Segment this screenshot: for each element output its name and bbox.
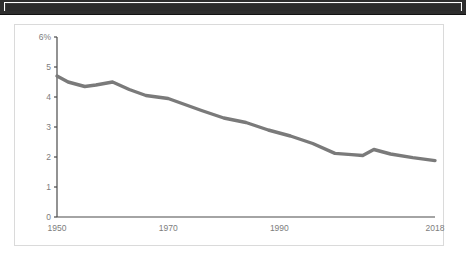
cropped-banner-edge [0,0,466,15]
x-tick-label: 1990 [270,223,289,233]
chart-panel: 0123456% 1950197019902018 [14,24,444,246]
chart-svg: 0123456% 1950197019902018 [15,25,445,247]
y-tick-label: 2 [46,152,51,162]
x-axis-tick-labels: 1950197019902018 [48,223,445,233]
line-chart: 0123456% 1950197019902018 [15,25,445,247]
data-series-line [57,76,435,161]
y-tick-label: 0 [46,212,51,222]
x-tick-label: 2018 [426,223,445,233]
x-tick-label: 1970 [159,223,178,233]
y-tick-label: 6% [39,32,52,42]
y-tick-label: 1 [46,182,51,192]
y-tick-label: 5 [46,62,51,72]
y-tick-label: 3 [46,122,51,132]
banner-inner-fill [6,4,460,11]
y-axis-tick-labels: 0123456% [39,32,57,222]
x-tick-label: 1950 [48,223,67,233]
y-tick-label: 4 [46,92,51,102]
